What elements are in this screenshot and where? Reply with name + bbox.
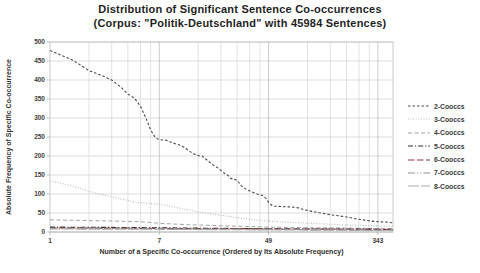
y-tick-label: 0 xyxy=(41,228,45,235)
y-tick-label: 450 xyxy=(34,57,45,64)
series-line-3-Cooccs xyxy=(50,181,393,227)
legend-label: 2-Cooccs xyxy=(434,103,465,110)
legend-label: 8-Cooccs xyxy=(434,183,465,190)
y-tick-label: 200 xyxy=(34,152,45,159)
legend-label: 3-Cooccs xyxy=(434,116,465,123)
legend-label: 7-Cooccs xyxy=(434,169,465,176)
legend-item-7-Cooccs: 7-Cooccs xyxy=(407,169,465,177)
legend: 2-Cooccs3-Cooccs4-Cooccs5-Cooccs6-Cooccs… xyxy=(407,102,465,190)
y-tick-label: 400 xyxy=(34,76,45,83)
legend-label: 5-Cooccs xyxy=(434,143,465,150)
legend-item-3-Cooccs: 3-Cooccs xyxy=(407,115,465,123)
legend-line-sample-icon xyxy=(407,103,431,109)
legend-item-8-Cooccs: 8-Cooccs xyxy=(407,182,465,190)
legend-line-sample-icon xyxy=(407,183,431,189)
x-tick-label: 7 xyxy=(157,237,161,244)
y-tick-label: 150 xyxy=(34,171,45,178)
legend-item-5-Cooccs: 5-Cooccs xyxy=(407,142,465,150)
legend-label: 4-Cooccs xyxy=(434,129,465,136)
legend-item-4-Cooccs: 4-Cooccs xyxy=(407,129,465,137)
legend-line-sample-icon xyxy=(407,143,431,149)
y-tick-label: 500 xyxy=(34,38,45,45)
y-tick-label: 100 xyxy=(34,190,45,197)
x-tick-label: 1 xyxy=(48,237,52,244)
cooccurrence-distribution-chart: Distribution of Significant Sentence Co-… xyxy=(0,0,480,273)
legend-line-sample-icon xyxy=(407,116,431,122)
y-tick-label: 50 xyxy=(38,209,46,216)
legend-line-sample-icon xyxy=(407,157,431,163)
y-tick-label: 350 xyxy=(34,95,45,102)
legend-label: 6-Cooccs xyxy=(434,156,465,163)
legend-line-sample-icon xyxy=(407,130,431,136)
legend-line-sample-icon xyxy=(407,170,431,176)
x-tick-label: 343 xyxy=(372,237,383,244)
legend-item-2-Cooccs: 2-Cooccs xyxy=(407,102,465,110)
y-tick-label: 250 xyxy=(34,133,45,140)
y-axis-title: Absolute Frequency of Specific Co-occurr… xyxy=(5,59,13,215)
x-axis-title: Number of a Specific Co-occurrence (Orde… xyxy=(99,248,343,256)
x-tick-label: 49 xyxy=(265,237,273,244)
y-tick-label: 300 xyxy=(34,114,45,121)
legend-item-6-Cooccs: 6-Cooccs xyxy=(407,156,465,164)
